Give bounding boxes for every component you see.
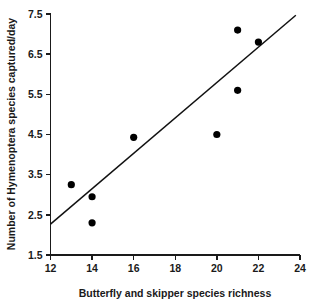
data-point <box>88 193 95 200</box>
data-point <box>68 181 75 188</box>
x-tick-label: 22 <box>253 262 265 274</box>
x-tick-label: 14 <box>86 262 98 274</box>
y-axis-group: 1.52.53.54.55.56.57.5 <box>28 8 51 261</box>
y-tick-label: 7.5 <box>28 8 43 20</box>
x-axis-group: 12141618202224 <box>45 255 306 274</box>
data-point <box>88 219 95 226</box>
x-tick-label: 16 <box>128 262 140 274</box>
regression-trendline <box>51 15 296 224</box>
scatter-plot-figure: 1.52.53.54.55.56.57.5 12141618202224 But… <box>0 0 316 307</box>
y-axis-title: Number of Hymenoptera species captured/d… <box>5 18 17 250</box>
y-tick-label: 1.5 <box>28 249 43 261</box>
data-point <box>234 87 241 94</box>
y-tick-label: 5.5 <box>28 88 43 100</box>
y-tick-label: 2.5 <box>28 209 43 221</box>
x-axis-tick-labels: 12141618202224 <box>45 262 306 274</box>
y-tick-label: 3.5 <box>28 168 43 180</box>
data-point <box>213 131 220 138</box>
y-axis-tick-labels: 1.52.53.54.55.56.57.5 <box>28 8 43 261</box>
data-point <box>130 134 137 141</box>
x-tick-label: 12 <box>45 262 57 274</box>
x-tick-label: 24 <box>294 262 306 274</box>
y-tick-label: 4.5 <box>28 128 43 140</box>
data-point <box>255 39 262 46</box>
data-point <box>234 26 241 33</box>
y-tick-label: 6.5 <box>28 48 43 60</box>
trendline-segment <box>51 15 296 224</box>
x-axis-title: Butterfly and skipper species richness <box>79 287 272 299</box>
x-tick-label: 18 <box>169 262 181 274</box>
plot-canvas: 1.52.53.54.55.56.57.5 12141618202224 But… <box>0 0 316 307</box>
x-tick-label: 20 <box>211 262 223 274</box>
